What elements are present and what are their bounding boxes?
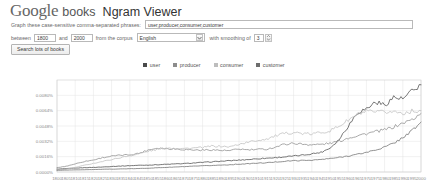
corpus-label: from the corpus [96, 35, 133, 41]
legend-item-customer[interactable]: customer [256, 62, 284, 68]
y-axis-tick-label: 0.0080% [36, 93, 53, 98]
chevron-down-icon [196, 34, 203, 41]
options-row: between 1800 and 2000 from the corpus En… [11, 33, 272, 42]
y-axis-tick-label: 0.0048% [36, 124, 53, 129]
phrases-label: Graph these case-sensitive comma-separat… [11, 22, 141, 28]
phrases-input[interactable]: user,producer,consumer,customer [145, 20, 413, 29]
legend-swatch-icon [256, 63, 260, 67]
legend-swatch-icon [173, 63, 177, 67]
legend-swatch-icon [143, 63, 147, 67]
year-start-input[interactable]: 1800 [34, 34, 56, 42]
legend-label: customer [263, 62, 285, 68]
y-axis-tick-label: 0.0016% [36, 154, 53, 159]
chart-svg: 0.0000%0.0016%0.0032%0.0048%0.0064%0.008… [0, 74, 428, 190]
between-label: between [11, 35, 31, 41]
smoothing-stepper[interactable] [265, 34, 272, 42]
google-logo[interactable]: Google [10, 1, 58, 21]
and-label: and [59, 35, 68, 41]
page-header: Google books Ngram Viewer [10, 1, 182, 21]
chart-legend: userproducerconsumercustomer [0, 62, 428, 68]
smoothing-input[interactable]: 3 [254, 34, 264, 42]
legend-item-user[interactable]: user [143, 62, 160, 68]
legend-label: producer [180, 62, 201, 68]
legend-label: consumer [220, 62, 243, 68]
legend-label: user [150, 62, 160, 68]
ngram-chart: 0.0000%0.0016%0.0032%0.0048%0.0064%0.008… [0, 74, 428, 190]
corpus-select[interactable]: English [137, 33, 205, 42]
submit-row: Search lots of books [11, 44, 70, 55]
phrases-row: Graph these case-sensitive comma-separat… [11, 20, 413, 29]
page-title: Ngram Viewer [103, 5, 182, 19]
ngram-viewer-page: Google books Ngram Viewer Graph these ca… [0, 0, 428, 190]
x-axis-tick-label: 2000 [416, 176, 426, 181]
smoothing-label: with smoothing of [210, 35, 251, 41]
year-end-input[interactable]: 2000 [71, 34, 93, 42]
search-button[interactable]: Search lots of books [11, 44, 70, 55]
legend-item-consumer[interactable]: consumer [214, 62, 244, 68]
corpus-selected-value: English [140, 35, 156, 41]
legend-item-producer[interactable]: producer [173, 62, 200, 68]
legend-swatch-icon [214, 63, 218, 67]
y-axis-tick-label: 0.0032% [36, 139, 53, 144]
books-label[interactable]: books [62, 5, 95, 19]
y-axis-tick-label: 0.0000% [36, 170, 53, 175]
y-axis-tick-label: 0.0064% [36, 108, 53, 113]
